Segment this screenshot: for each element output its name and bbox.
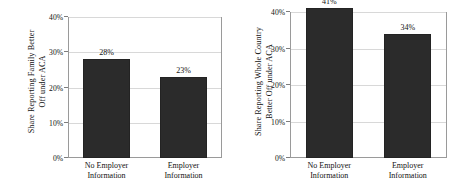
bar	[306, 8, 353, 158]
y-axis-tick-mark	[286, 11, 290, 12]
x-axis-category-label-line1: Employer	[363, 161, 453, 171]
y-axis-title-left-line1: Share Reporting Family Better	[27, 29, 38, 133]
y-axis-tick-mark	[64, 16, 68, 17]
y-axis-tick-mark	[286, 84, 290, 85]
y-axis-tick-mark	[286, 157, 290, 158]
two-panel-bar-chart-figure: Share Reporting Family Better Off under …	[0, 0, 460, 195]
x-axis-category-label-line2: Information	[284, 171, 374, 181]
y-axis-tick-mark	[64, 157, 68, 158]
x-axis-category-label: EmployerInformation	[363, 161, 453, 181]
x-axis-category-label-line2: Information	[139, 171, 229, 181]
bar-value-label: 41%	[309, 0, 349, 6]
y-axis-tick-label: 20%	[40, 83, 63, 92]
chart-panel-right: Share Reporting Whole Country Better Off…	[230, 0, 460, 195]
x-axis-category-label: EmployerInformation	[139, 161, 229, 181]
y-axis-tick-mark	[64, 51, 68, 52]
y-axis-tick-label: 20%	[262, 81, 285, 90]
bar	[384, 34, 431, 158]
y-axis-tick-label: 30%	[262, 44, 285, 53]
x-axis-category-label-line2: Information	[363, 171, 453, 181]
y-axis-tick-label: 0%	[40, 154, 63, 163]
y-axis-tick-label: 10%	[40, 118, 63, 127]
bar-value-label: 34%	[388, 23, 428, 32]
x-axis-category-label-line1: No Employer	[284, 161, 374, 171]
bar	[83, 59, 129, 158]
y-axis-tick-label: 30%	[40, 48, 63, 57]
x-axis-category-label-line1: Employer	[139, 161, 229, 171]
y-axis-tick-label: 40%	[40, 13, 63, 22]
y-axis-tick-label: 0%	[262, 154, 285, 163]
y-axis-tick-label: 10%	[262, 117, 285, 126]
y-axis-tick-label: 40%	[262, 8, 285, 17]
chart-panel-left: Share Reporting Family Better Off under …	[0, 0, 230, 195]
bar-value-label: 23%	[164, 66, 204, 75]
bar-value-label: 28%	[87, 48, 127, 57]
y-axis-tick-mark	[286, 121, 290, 122]
y-axis-tick-mark	[286, 48, 290, 49]
y-axis-tick-mark	[64, 87, 68, 88]
y-axis-tick-mark	[64, 122, 68, 123]
gridline	[69, 17, 221, 18]
bar	[160, 77, 206, 158]
x-axis-category-label: No EmployerInformation	[284, 161, 374, 181]
